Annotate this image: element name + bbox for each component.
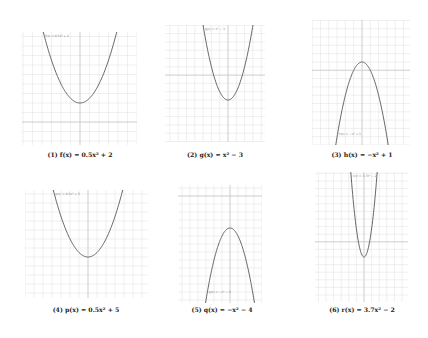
axes — [22, 32, 137, 145]
grid-lines — [25, 190, 148, 298]
parabola-curve — [165, 25, 265, 100]
curve-label: r(x) = 3.7x² − 2 — [353, 174, 377, 178]
curve-label: h(x) = −x² + 1 — [339, 132, 361, 136]
grid-lines — [178, 185, 262, 303]
plot-caption-5: (5) q(x) = −x² − 4 — [182, 306, 262, 313]
plot-caption-4: (4) p(x) = 0.5x² + 5 — [46, 306, 126, 313]
parabola-curve — [25, 190, 148, 257]
grid-lines — [312, 20, 410, 145]
plot-caption-6: (6) r(x) = 3.7x² − 2 — [322, 306, 402, 313]
plot-caption-1: (1) f(x) = 0.5x² + 2 — [40, 151, 120, 158]
curve-label: q(x) = −x² − 4 — [209, 290, 231, 294]
parabola-plot-5: q(x) = −x² − 4 — [178, 185, 262, 303]
curve-label: f(x) = 0.5x² + 2 — [45, 34, 69, 38]
parabola-plot-4: p(x) = 0.5x² + 5 — [25, 190, 148, 298]
parabola-curve — [315, 172, 408, 257]
parabola-plot-3: h(x) = −x² + 1 — [312, 20, 410, 145]
parabola-plot-2: g(x) = x² − 3 — [165, 25, 265, 142]
grid-lines — [22, 32, 137, 145]
parabola-plot-1: f(x) = 0.5x² + 2 — [22, 32, 137, 145]
plot-caption-2: (2) g(x) = x² − 3 — [175, 151, 255, 158]
curve-label: g(x) = x² − 3 — [205, 27, 225, 31]
parabola-curve — [22, 32, 137, 103]
plot-caption-3: (3) h(x) = −x² + 1 — [322, 151, 402, 158]
axes — [315, 172, 408, 302]
curve-label: p(x) = 0.5x² + 5 — [55, 192, 80, 196]
parabola-plot-6: r(x) = 3.7x² − 2 — [315, 172, 408, 302]
grid-lines — [315, 172, 408, 302]
